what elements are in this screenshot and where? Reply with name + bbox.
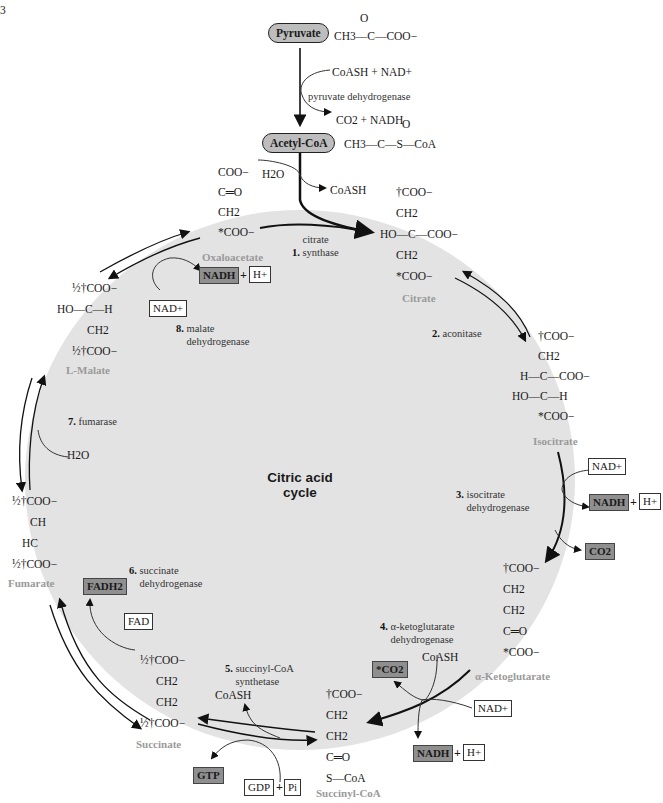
isocitrate-label: Isocitrate xyxy=(533,435,578,447)
structure-line: †COO− xyxy=(503,562,540,575)
succinate-structure: ½†COO− CH2 CH2 ½†COO− xyxy=(140,654,185,730)
structure-line: HC xyxy=(12,537,57,550)
pdh-enzyme: pyruvate dehydrogenase xyxy=(308,90,410,103)
citrate-label: Citrate xyxy=(402,292,436,304)
citric-acid-cycle-diagram: 3 Citric acid cycle Pyruvate O CH3—C—COO… xyxy=(0,0,663,803)
step4-nadh-box: NADH xyxy=(413,745,453,762)
structure-line: CH2 xyxy=(326,709,366,722)
step4-nad-box: NAD+ xyxy=(474,700,512,717)
structure-line: †COO− xyxy=(326,688,366,701)
structure-line: CH2 xyxy=(380,207,458,220)
succinyl-coa-structure: †COO− CH2 CH2 C═O S—CoA xyxy=(326,688,366,785)
step3-nadh-box: NADH xyxy=(589,494,629,511)
oxaloacetate-structure: COO− C═O CH2 *COO− xyxy=(218,166,255,239)
pdh-outputs: CO2 + NADH xyxy=(336,114,403,127)
enzyme-name: succinyl-CoA synthetase xyxy=(236,662,308,688)
acetyl-coa-formula: CH3—C—S—CoA xyxy=(344,138,436,151)
enzyme-step: 5. xyxy=(225,663,233,674)
enzyme-name: citrate synthase xyxy=(303,233,363,259)
water-in: H2O xyxy=(262,168,284,181)
enzyme-step: 7. xyxy=(68,416,76,427)
step3-nad-box: NAD+ xyxy=(588,458,626,475)
malate-structure: ½†COO− HO—C—H CH2 ½†COO− xyxy=(57,282,117,358)
step5-pi-box: Pi xyxy=(284,779,301,796)
structure-line: CH xyxy=(12,516,57,529)
fumarate-structure: ½†COO− CH HC ½†COO− xyxy=(12,495,57,571)
step8-nad-box: NAD+ xyxy=(149,300,187,317)
fumarate-label: Fumarate xyxy=(8,577,54,589)
structure-line: ½†COO− xyxy=(57,282,117,295)
citrate-structure: †COO− CH2 HO—C—COO− CH2 *COO− xyxy=(380,186,458,283)
figure-marker: 3 xyxy=(0,4,6,17)
enzyme-step: 6. xyxy=(129,565,137,576)
enzyme-name: aconitase xyxy=(443,328,482,339)
structure-line: CH2 xyxy=(140,675,185,688)
structure-line: *COO− xyxy=(520,410,590,423)
structure-line: †COO− xyxy=(520,330,590,343)
malate-label: L-Malate xyxy=(66,364,110,376)
structure-line: HO—C—H xyxy=(512,390,590,403)
cycle-title: Citric acid cycle xyxy=(240,470,360,500)
structure-line: H—C—COO− xyxy=(520,370,590,383)
enzyme-4: 4. α-ketoglutarate dehydrogenase xyxy=(380,620,471,646)
structure-line: CH2 xyxy=(140,696,185,709)
plus-sign: + xyxy=(240,268,247,283)
acetyl-coa-carbonyl-o: O xyxy=(402,118,410,131)
enzyme-1: 1. citrate synthase xyxy=(292,233,363,259)
enzyme-step: 3. xyxy=(456,489,464,500)
structure-line: ½†COO− xyxy=(140,717,185,730)
step8-h-box: H+ xyxy=(249,266,271,283)
enzyme-2: 2. aconitase xyxy=(432,327,482,340)
structure-line: C═O xyxy=(218,186,255,199)
structure-line: ½†COO− xyxy=(57,345,117,358)
structure-line: †COO− xyxy=(380,186,458,199)
structure-line: CH2 xyxy=(218,206,255,219)
structure-line: S—CoA xyxy=(326,772,366,785)
structure-line: *COO− xyxy=(503,646,540,659)
step6-fadh2-box: FADH2 xyxy=(83,578,127,595)
structure-line: *COO− xyxy=(380,270,458,283)
enzyme-step: 2. xyxy=(432,328,440,339)
structure-line: C═O xyxy=(503,625,540,638)
enzyme-step: 8. xyxy=(176,323,184,334)
acetyl-coa-pill: Acetyl-CoA xyxy=(262,133,335,153)
step4-h-box: H+ xyxy=(463,744,485,761)
structure-line: CH2 xyxy=(503,604,540,617)
pyruvate-formula: CH3—C—COO− xyxy=(334,30,417,43)
structure-line: *COO− xyxy=(218,226,255,239)
structure-line: HO—C—H xyxy=(57,303,117,316)
enzyme-step: 4. xyxy=(380,621,388,632)
step5-gtp-box: GTP xyxy=(193,767,224,784)
enzyme-3: 3. isocitrate dehydrogenase xyxy=(456,488,547,514)
structure-line: C═O xyxy=(326,751,366,764)
isocitrate-structure: †COO− CH2 H—C—COO− HO—C—H *COO− xyxy=(520,330,590,423)
akg-label: α-Ketoglutarate xyxy=(475,670,550,682)
step4-coash: CoASH xyxy=(422,651,458,664)
enzyme-step: 1. xyxy=(292,247,300,258)
cycle-title-line1: Citric acid xyxy=(240,470,360,485)
structure-line: ½†COO− xyxy=(140,654,185,667)
structure-line: ½†COO− xyxy=(12,495,57,508)
enzyme-name: isocitrate dehydrogenase xyxy=(467,488,547,514)
pyruvate-pill: Pyruvate xyxy=(268,23,329,43)
step7-water: H2O xyxy=(67,449,89,462)
step6-fad-box: FAD xyxy=(124,613,153,630)
oxaloacetate-label: Oxaloacetate xyxy=(202,251,263,263)
step3-co2-box: CO2 xyxy=(585,543,615,560)
step5-gdp-box: GDP xyxy=(244,779,274,796)
enzyme-name: fumarase xyxy=(79,416,117,427)
succinyl-coa-label: Succinyl-CoA xyxy=(316,787,381,799)
enzyme-name: malate dehydrogenase xyxy=(187,322,267,348)
enzyme-6: 6. succinate dehydrogenase xyxy=(129,564,220,590)
enzyme-8: 8. malate dehydrogenase xyxy=(176,322,267,348)
plus-sign: + xyxy=(630,495,637,510)
step3-h-box: H+ xyxy=(639,493,661,510)
akg-structure: †COO− CH2 CH2 C═O *COO− xyxy=(503,562,540,659)
coash-out: CoASH xyxy=(330,184,366,197)
structure-line: HO—C—COO− xyxy=(380,228,458,241)
structure-line: ½†COO− xyxy=(12,558,57,571)
structure-line: CH2 xyxy=(326,730,366,743)
structure-line: CH2 xyxy=(503,583,540,596)
structure-line: COO− xyxy=(218,166,255,179)
enzyme-name: succinate dehydrogenase xyxy=(140,564,220,590)
